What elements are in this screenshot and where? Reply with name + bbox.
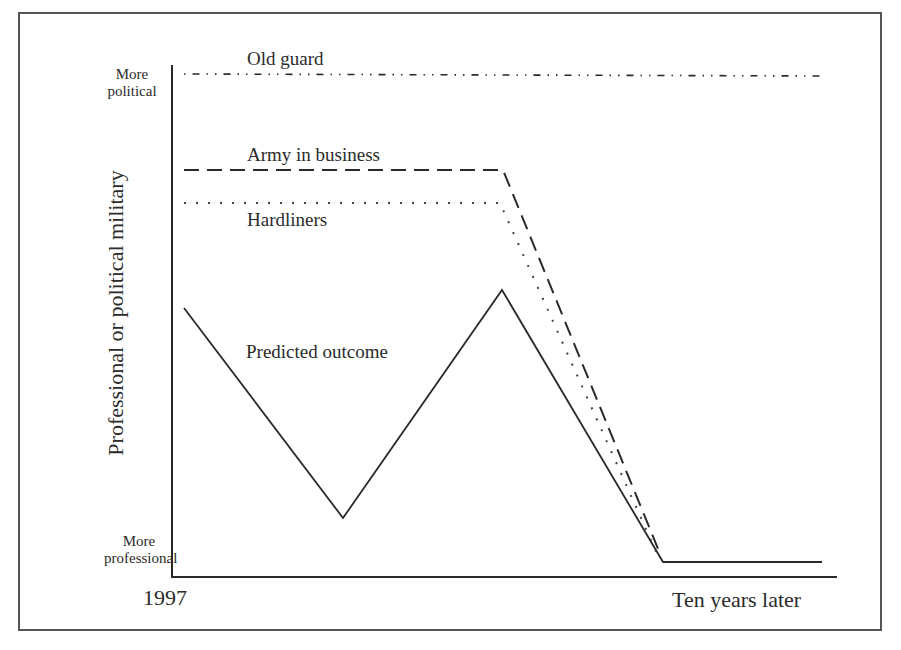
y-tick-bottom-label: More professional (104, 533, 162, 567)
x-tick-end-label: Ten years later (672, 589, 801, 611)
series-label-army-in-business: Army in business (247, 145, 380, 164)
series-hardliners-line (184, 203, 658, 556)
y-tick-top-line1: More (102, 66, 162, 83)
y-axis-title: Professional or political military (105, 143, 131, 483)
series-label-predicted-outcome: Predicted outcome (246, 342, 388, 361)
series-predicted-outcome-line (184, 290, 822, 562)
y-tick-bottom-line2: professional (104, 550, 162, 567)
x-tick-start-label: 1997 (143, 587, 187, 609)
y-tick-bottom-line1: More (104, 533, 162, 550)
series-old-guard-line (184, 74, 824, 76)
y-tick-top-line2: political (102, 83, 162, 100)
series-label-hardliners: Hardliners (247, 210, 327, 229)
series-label-old-guard: Old guard (247, 49, 324, 68)
y-tick-top-label: More political (102, 66, 162, 100)
